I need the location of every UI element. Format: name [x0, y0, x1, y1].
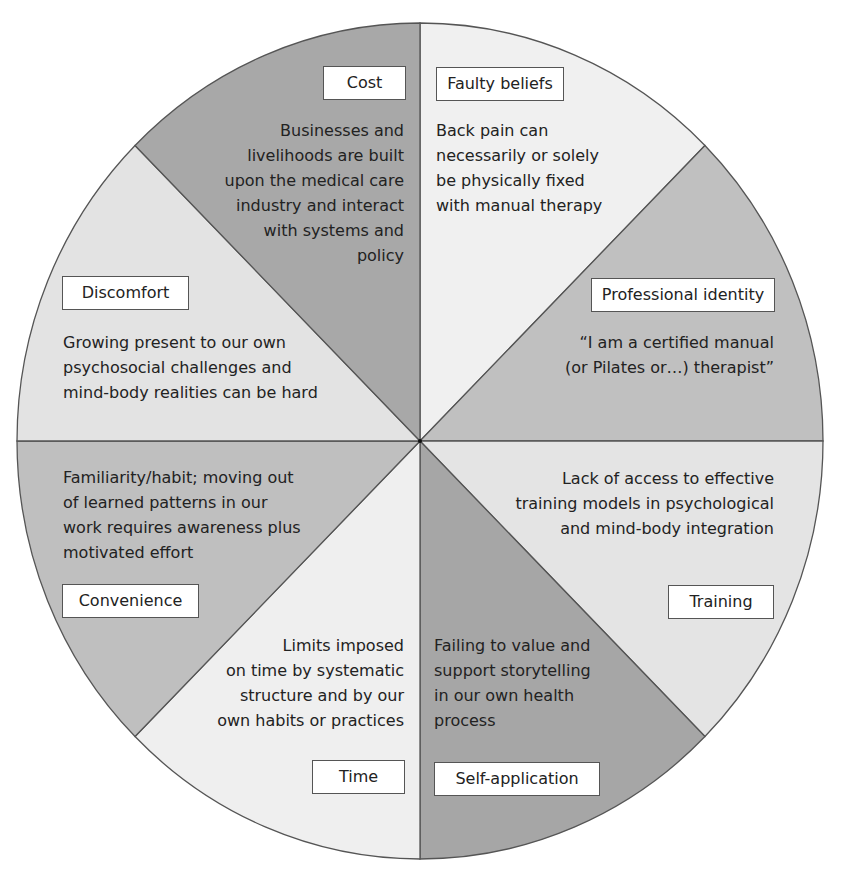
barrier-wheel	[0, 0, 845, 879]
label-training: Training	[668, 585, 774, 619]
description-self-application: Failing to value and support storytellin…	[434, 633, 654, 733]
label-cost: Cost	[323, 66, 406, 100]
label-convenience: Convenience	[62, 584, 199, 618]
label-professional-identity: Professional identity	[591, 278, 775, 312]
description-professional-identity: “I am a certified manual (or Pilates or……	[454, 330, 774, 380]
description-convenience: Familiarity/habit; moving out of learned…	[63, 465, 363, 565]
label-self-application: Self-application	[434, 762, 600, 796]
label-discomfort: Discomfort	[62, 276, 189, 310]
description-faulty-beliefs: Back pain can necessarily or solely be p…	[436, 118, 686, 218]
description-cost: Businesses and livelihoods are built upo…	[144, 118, 404, 268]
description-time: Limits imposed on time by systematic str…	[144, 633, 404, 733]
label-faulty-beliefs: Faulty beliefs	[436, 67, 564, 101]
label-time: Time	[312, 760, 405, 794]
description-training: Lack of access to effective training mod…	[434, 466, 774, 541]
center-dot	[418, 439, 422, 443]
description-discomfort: Growing present to our own psychosocial …	[63, 330, 363, 405]
